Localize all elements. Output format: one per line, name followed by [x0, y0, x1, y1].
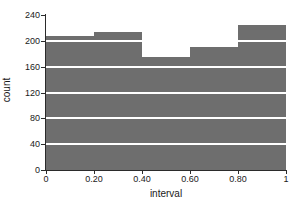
- y-axis-line: [45, 14, 46, 171]
- y-tick-mark: [41, 144, 45, 145]
- x-tick-label: 0: [26, 175, 66, 184]
- y-tick-label: 200: [10, 37, 40, 46]
- x-tick-mark: [94, 170, 95, 174]
- bar: [142, 57, 190, 170]
- y-tick-mark: [41, 170, 45, 171]
- y-tick-mark: [41, 67, 45, 68]
- bar: [46, 36, 94, 170]
- y-tick-label: 160: [10, 63, 40, 72]
- x-tick-mark: [190, 170, 191, 174]
- gridline: [46, 66, 286, 68]
- y-tick-mark: [41, 93, 45, 94]
- x-tick-label: 0.60: [170, 175, 210, 184]
- plot-area: [46, 15, 286, 170]
- y-tick-label: 0: [10, 166, 40, 175]
- x-axis-line: [45, 170, 287, 171]
- x-tick-label: 0.40: [122, 175, 162, 184]
- gridline: [46, 15, 286, 16]
- y-tick-label: 240: [10, 11, 40, 20]
- y-axis-title: count: [2, 65, 12, 115]
- x-tick-label: 1: [266, 175, 290, 184]
- x-tick-mark: [46, 170, 47, 174]
- bar: [94, 32, 142, 170]
- x-axis-title: interval: [46, 189, 286, 199]
- y-tick-mark: [41, 15, 45, 16]
- x-tick-mark: [142, 170, 143, 174]
- bar: [238, 25, 286, 170]
- y-tick-label: 80: [10, 114, 40, 123]
- histogram-chart: 1000 random numbers 04080120160200240 in…: [0, 0, 290, 206]
- y-tick-label: 40: [10, 140, 40, 149]
- x-tick-label: 0.80: [218, 175, 258, 184]
- x-tick-mark: [238, 170, 239, 174]
- gridline: [46, 143, 286, 145]
- gridline: [46, 117, 286, 119]
- gridline: [46, 40, 286, 42]
- x-tick-label: 0.20: [74, 175, 114, 184]
- y-tick-mark: [41, 118, 45, 119]
- y-tick-mark: [41, 41, 45, 42]
- y-tick-label: 120: [10, 89, 40, 98]
- x-tick-mark: [286, 170, 287, 174]
- gridline: [46, 92, 286, 94]
- chart-title: 1000 random numbers: [46, 0, 286, 1]
